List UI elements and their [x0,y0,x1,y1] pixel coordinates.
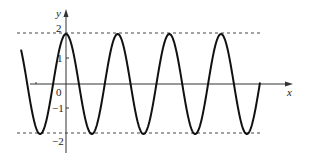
y-tick-label-2: 2 [56,22,62,34]
origin-label: 0 [56,86,62,98]
y-axis-label: y [55,7,61,19]
y-axis-arrow-icon [64,9,69,17]
x-axis-label: x [286,86,292,98]
cosine-plot: y x 2 1 0 −1 −2 [0,0,309,165]
y-tick-label-minus1: −1 [52,102,64,114]
y-tick-label-minus2: −2 [52,135,64,147]
